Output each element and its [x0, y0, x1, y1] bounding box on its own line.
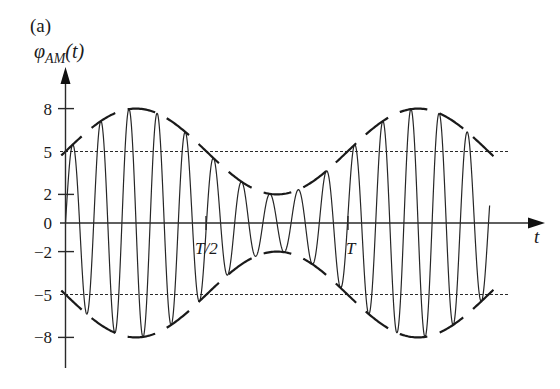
- y-tick-label: 0: [44, 214, 53, 233]
- y-axis-tick-labels: 8 5 2 0 −2 −5 −8: [34, 100, 52, 348]
- y-axis-arrow-icon: [61, 67, 71, 84]
- y-tick-label: −5: [34, 286, 52, 305]
- y-axis-label-symbol: φ: [34, 40, 45, 63]
- y-axis-label: φAM(t): [34, 40, 85, 66]
- y-axis-label-arg: (t): [65, 40, 84, 63]
- y-axis-label-subscript: AM: [44, 51, 67, 66]
- x-axis-label: t: [534, 226, 540, 247]
- panel-label: (a): [30, 15, 51, 37]
- x-tick-label-half-period: T/2: [195, 239, 218, 258]
- axes: [60, 67, 545, 368]
- y-tick-label: 8: [44, 100, 53, 119]
- x-tick-label-period: T: [346, 239, 357, 258]
- am-waveform-figure: (a) φAM(t) 8 5 2 0 −2 −5 −8 T/2: [0, 0, 560, 389]
- y-tick-label: −8: [34, 328, 52, 347]
- y-tick-label: 5: [44, 143, 53, 162]
- y-tick-label: 2: [44, 185, 53, 204]
- y-tick-label: −2: [34, 243, 52, 262]
